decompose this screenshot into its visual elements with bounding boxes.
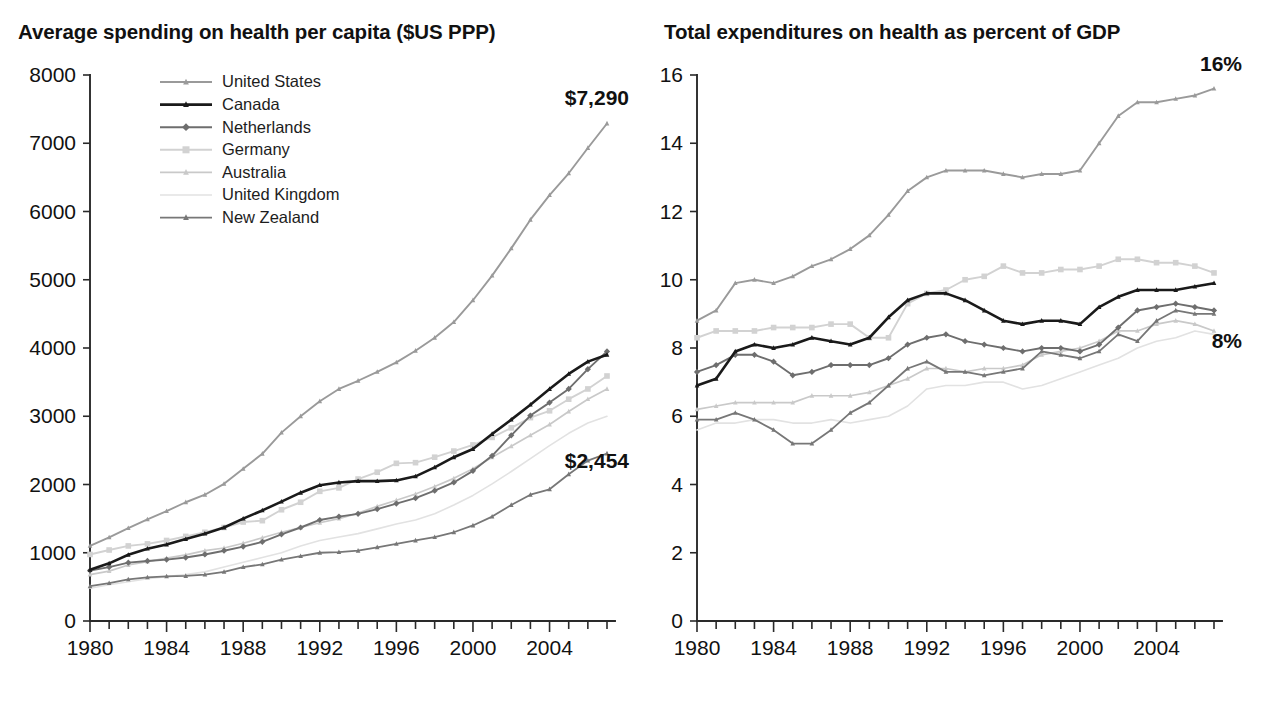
y-tick-label: 12 [660, 200, 683, 223]
data-point-marker [87, 552, 93, 558]
data-point-marker [374, 469, 380, 475]
data-point-marker [981, 274, 987, 280]
data-point-marker [1096, 263, 1102, 269]
data-point-marker [279, 507, 285, 513]
chart-annotation: 8% [1212, 329, 1243, 352]
x-tick-label: 1984 [143, 636, 190, 659]
data-point-marker [336, 485, 342, 491]
figure-root: Average spending on health per capita ($… [0, 0, 1262, 702]
data-point-marker [106, 547, 112, 553]
chart-panel-spending: Average spending on health per capita ($… [0, 0, 640, 702]
data-point-marker [771, 325, 777, 331]
x-tick-label: 2004 [1133, 636, 1180, 659]
data-point-marker [1019, 348, 1025, 354]
data-point-marker [924, 335, 930, 341]
x-tick-label: 1996 [980, 636, 1027, 659]
data-point-marker [145, 541, 151, 547]
data-point-marker [943, 331, 949, 337]
y-tick-label: 1000 [29, 541, 76, 564]
data-point-marker [182, 123, 190, 131]
y-tick-label: 2 [671, 541, 683, 564]
y-tick-label: 2000 [29, 473, 76, 496]
data-point-marker [298, 499, 304, 505]
data-point-marker [1000, 345, 1006, 351]
y-tick-label: 10 [660, 268, 683, 291]
data-point-marker [451, 448, 457, 454]
data-point-marker [694, 369, 700, 375]
y-tick-label: 14 [660, 131, 684, 154]
y-tick-label: 5000 [29, 268, 76, 291]
data-point-marker [394, 461, 400, 467]
data-point-marker [847, 362, 853, 368]
x-tick-label: 1980 [67, 636, 114, 659]
series-line-netherlands [697, 304, 1214, 376]
series-line-united-kingdom [697, 331, 1214, 430]
x-tick-label: 2000 [1057, 636, 1104, 659]
x-tick-label: 2004 [526, 636, 573, 659]
y-tick-label: 8000 [29, 63, 76, 86]
data-point-marker [144, 558, 150, 564]
data-point-marker [1211, 307, 1217, 313]
chart-panel-gdp: Total expenditures on health as percent … [640, 0, 1262, 702]
data-point-marker [585, 386, 591, 392]
data-point-marker [809, 369, 815, 375]
data-point-marker [1001, 263, 1007, 269]
x-tick-label: 1992 [296, 636, 343, 659]
legend-label-canada: Canada [222, 95, 281, 113]
data-point-marker [1153, 304, 1159, 310]
spending-per-capita-plot: 0100020003000400050006000700080001980198… [0, 0, 640, 702]
chart-annotation: 16% [1200, 52, 1242, 75]
x-tick-label: 1992 [903, 636, 950, 659]
legend-label-australia: Australia [222, 163, 287, 181]
series-line-united-kingdom [90, 416, 607, 588]
y-tick-label: 3000 [29, 404, 76, 427]
data-point-marker [1039, 270, 1045, 276]
data-point-marker [1058, 267, 1064, 273]
data-point-marker [1173, 301, 1179, 307]
legend-label-netherlands: Netherlands [222, 118, 311, 136]
data-point-marker [1192, 304, 1198, 310]
y-tick-label: 0 [671, 609, 683, 632]
data-point-marker [962, 338, 968, 344]
y-tick-label: 0 [64, 609, 76, 632]
data-point-marker [260, 518, 266, 524]
data-point-marker [1115, 256, 1121, 262]
y-tick-label: 6000 [29, 200, 76, 223]
data-point-marker [981, 341, 987, 347]
series-line-germany [90, 376, 607, 554]
legend-label-united-states: United States [222, 72, 321, 90]
chart-annotation: $7,290 [565, 86, 629, 109]
legend-label-germany: Germany [222, 140, 291, 158]
data-point-marker [866, 362, 872, 368]
y-tick-label: 6 [671, 404, 683, 427]
series-line-new-zealand [90, 454, 607, 587]
data-point-marker [732, 328, 738, 334]
data-point-marker [1173, 260, 1179, 266]
data-point-marker [298, 524, 304, 530]
data-point-marker [1020, 270, 1026, 276]
data-point-marker [790, 325, 796, 331]
y-tick-label: 4000 [29, 336, 76, 359]
x-tick-label: 2000 [450, 636, 497, 659]
legend-label-united-kingdom: United Kingdom [222, 185, 339, 203]
x-tick-label: 1996 [373, 636, 420, 659]
x-tick-label: 1984 [750, 636, 797, 659]
y-tick-label: 4 [671, 473, 683, 496]
data-point-marker [1192, 263, 1198, 269]
data-point-marker [1039, 345, 1045, 351]
x-tick-label: 1980 [674, 636, 721, 659]
series-line-australia [697, 321, 1214, 410]
data-point-marker [828, 362, 834, 368]
chart-annotation: $2,454 [565, 449, 630, 472]
data-point-marker [752, 328, 758, 334]
data-point-marker [751, 352, 757, 358]
data-point-marker [1077, 267, 1083, 273]
data-point-marker [413, 460, 419, 466]
x-tick-label: 1988 [220, 636, 267, 659]
data-point-marker [605, 386, 610, 391]
series-line-canada [90, 355, 607, 570]
data-point-marker [809, 325, 815, 331]
data-point-marker [962, 277, 968, 283]
health-percent-gdp-plot: 0246810121416198019841988199219962000200… [640, 0, 1262, 702]
data-point-marker [604, 373, 610, 379]
